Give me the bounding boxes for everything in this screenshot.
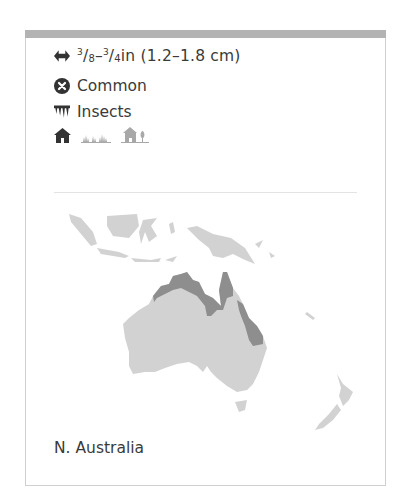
insect-prey-icon (54, 104, 70, 120)
distribution-label: N. Australia (54, 439, 144, 457)
circle-x-icon (54, 78, 70, 94)
size-value: 3/8–3/4in (1.2–1.8 cm) (77, 47, 241, 65)
status-label: Common (77, 77, 147, 95)
species-info-card: 3/8–3/4in (1.2–1.8 cm) Common Insects (25, 30, 386, 486)
grass-icon (81, 128, 111, 147)
house-icon (54, 128, 71, 147)
divider (54, 192, 357, 193)
status-row: Common (54, 77, 147, 95)
house-tree-icon (121, 126, 149, 147)
size-row: 3/8–3/4in (1.2–1.8 cm) (54, 47, 241, 65)
habitat-icons (54, 126, 149, 147)
distribution-map (61, 200, 361, 440)
diet-row: Insects (54, 103, 132, 121)
double-arrow-icon (54, 48, 70, 64)
card-top-bar (25, 30, 386, 38)
diet-label: Insects (77, 103, 132, 121)
